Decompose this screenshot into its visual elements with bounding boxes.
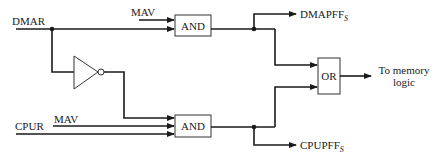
or-input-top-wire [275, 29, 317, 65]
inverter-output-wire [104, 72, 174, 118]
or-label: OR [321, 70, 337, 82]
or-input-bottom-wire [275, 87, 317, 127]
dmar-label: DMAR [12, 15, 46, 27]
cpupff-label: CPUPFFS [300, 139, 344, 154]
memory-label-line2: logic [393, 76, 415, 88]
memory-label-line1: To memory [379, 64, 430, 76]
dmapff-wire [254, 14, 296, 29]
cpur-label: CPUR [15, 120, 44, 132]
cpupff-wire [254, 127, 296, 145]
inverter-input-wire [52, 29, 74, 72]
inverter-bubble [98, 69, 104, 75]
mav-top-label: MAV [131, 6, 155, 18]
or-gate: OR [318, 58, 340, 94]
and-bottom-label: AND [181, 120, 205, 132]
and-gate-top: AND [175, 15, 211, 36]
and-gate-bottom: AND [175, 115, 211, 137]
and-top-label: AND [181, 20, 205, 32]
logic-diagram: DMAR MAV CPUR MAV AND AND OR DMAPFFS [0, 0, 448, 162]
inverter-gate [74, 56, 104, 89]
dmapff-label: DMAPFFS [300, 8, 348, 23]
mav-bottom-label: MAV [54, 113, 78, 125]
